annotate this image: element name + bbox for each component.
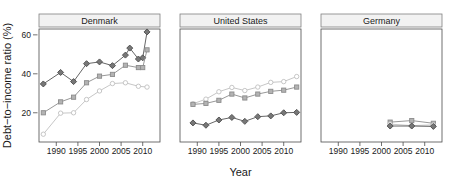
data-point-square	[191, 102, 195, 106]
data-point-square	[295, 85, 299, 89]
y-axis-title: Debt−to−income ratio (%)	[1, 23, 13, 148]
panel-strip-label: Denmark	[81, 16, 118, 26]
data-point-square	[123, 63, 127, 67]
x-tick-label: 2000	[372, 146, 391, 156]
data-point-diamond	[144, 29, 150, 35]
data-point-square	[59, 100, 63, 104]
x-tick-label: 1995	[68, 146, 87, 156]
x-tick-label: 1995	[350, 146, 369, 156]
data-point-square	[282, 88, 286, 92]
x-tick-label: 2000	[231, 146, 250, 156]
data-point-circle	[41, 132, 45, 136]
y-tick-label: 40	[22, 69, 32, 79]
data-point-circle	[282, 79, 286, 83]
chart-svg: Debt−to−income ratio (%)204060YearDenmar…	[0, 0, 468, 186]
data-point-circle	[110, 81, 114, 85]
x-tick-label: 2005	[253, 146, 272, 156]
x-tick-label: 2010	[133, 146, 152, 156]
panel-strip-label: United States	[213, 16, 268, 26]
data-point-circle	[294, 74, 298, 78]
data-point-circle	[97, 89, 101, 93]
data-point-square	[110, 72, 114, 76]
x-tick-label: 2010	[274, 146, 293, 156]
panel-united-states: United States19901995200020052010	[180, 14, 301, 156]
data-point-circle	[269, 80, 273, 84]
y-tick-label: 60	[22, 30, 32, 40]
data-point-square	[141, 65, 145, 69]
data-point-diamond	[71, 79, 77, 85]
chart-figure: Debt−to−income ratio (%)204060YearDenmar…	[0, 0, 468, 186]
x-tick-label: 2000	[90, 146, 109, 156]
data-point-diamond	[255, 114, 261, 120]
data-point-square	[410, 118, 414, 122]
x-axis-title: Year	[229, 166, 252, 178]
series-circle	[41, 81, 149, 137]
x-tick-label: 2005	[112, 146, 131, 156]
data-point-circle	[71, 111, 75, 115]
y-tick-label: 20	[22, 108, 32, 118]
data-point-circle	[58, 111, 62, 115]
x-tick-label: 1995	[209, 146, 228, 156]
data-point-diamond	[216, 117, 222, 123]
data-point-square	[145, 48, 149, 52]
data-point-circle	[204, 97, 208, 101]
x-tick-label: 1990	[188, 146, 207, 156]
panel-germany: Germany19901995200020052010	[321, 14, 442, 156]
data-point-diamond	[294, 109, 300, 115]
data-point-diamond	[242, 118, 248, 124]
data-point-diamond	[40, 81, 46, 87]
data-point-diamond	[97, 59, 103, 65]
x-tick-label: 1990	[329, 146, 348, 156]
data-point-square	[71, 95, 75, 99]
panel-frame	[180, 29, 301, 142]
data-point-square	[217, 98, 221, 102]
data-point-square	[204, 101, 208, 105]
data-point-circle	[217, 90, 221, 94]
series-square	[41, 48, 149, 115]
panel-denmark: Denmark19901995200020052010	[39, 14, 160, 156]
data-point-square	[84, 81, 88, 85]
data-point-diamond	[409, 123, 415, 129]
data-point-diamond	[190, 120, 196, 126]
x-tick-label: 2005	[394, 146, 413, 156]
data-point-diamond	[229, 114, 235, 120]
data-point-circle	[145, 85, 149, 89]
data-point-square	[230, 92, 234, 96]
data-point-diamond	[203, 122, 209, 128]
data-point-diamond	[84, 61, 90, 67]
data-point-circle	[136, 84, 140, 88]
data-point-diamond	[281, 110, 287, 116]
data-point-circle	[123, 81, 127, 85]
data-point-square	[136, 65, 140, 69]
data-point-square	[97, 74, 101, 78]
data-point-circle	[84, 97, 88, 101]
data-point-square	[243, 96, 247, 100]
data-point-square	[269, 89, 273, 93]
data-point-diamond	[268, 113, 274, 119]
data-point-square	[41, 111, 45, 115]
series-line-diamond	[43, 32, 147, 84]
series-diamond	[190, 109, 300, 128]
data-point-square	[256, 92, 260, 96]
data-point-circle	[243, 88, 247, 92]
x-tick-label: 1990	[47, 146, 66, 156]
data-point-circle	[256, 85, 260, 89]
panel-frame	[39, 29, 160, 142]
series-line-circle	[43, 83, 147, 134]
panel-strip-label: Germany	[363, 16, 401, 26]
x-tick-label: 2010	[415, 146, 434, 156]
data-point-circle	[230, 85, 234, 89]
data-point-diamond	[58, 69, 64, 75]
